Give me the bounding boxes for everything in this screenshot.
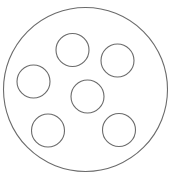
inner-circle-3 [17, 65, 50, 98]
inner-circle-1 [56, 34, 89, 67]
inner-circle-5 [32, 114, 65, 147]
inner-circle-6 [103, 114, 136, 147]
outer-circle [4, 8, 168, 172]
circle-diagram [0, 0, 169, 179]
inner-circle-2 [101, 44, 134, 77]
inner-circles [17, 34, 136, 148]
inner-circle-4 [71, 80, 104, 113]
